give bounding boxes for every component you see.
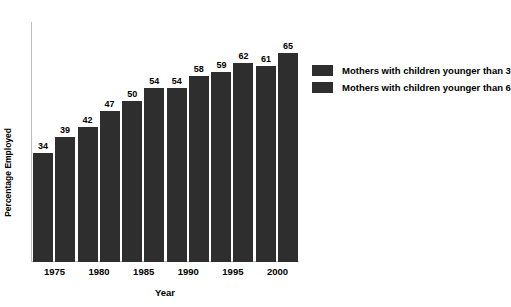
bar-group: 3439: [33, 8, 76, 262]
bar-wrapper: 42: [78, 8, 98, 262]
bar-group: 6165: [256, 8, 299, 262]
bar-group: 5962: [211, 8, 254, 262]
bar-value-label: 34: [38, 141, 48, 151]
x-tick-label: 2000: [256, 266, 299, 277]
bar-wrapper: 47: [100, 8, 120, 262]
bar-group: 5054: [122, 8, 165, 262]
x-tick-label: 1985: [122, 266, 165, 277]
legend-item-label: Mothers with children younger than 6: [342, 82, 511, 93]
bar[interactable]: [278, 53, 298, 262]
bar-value-label: 50: [127, 89, 137, 99]
bar-wrapper: 58: [189, 8, 209, 262]
bar-value-label: 42: [83, 115, 93, 125]
legend-item[interactable]: Mothers with children younger than 3: [312, 63, 511, 78]
bar-wrapper: 54: [144, 8, 164, 262]
bar[interactable]: [122, 101, 142, 262]
bar-wrapper: 65: [278, 8, 298, 262]
legend-item-label: Mothers with children younger than 3: [342, 65, 511, 76]
x-tick-label: 1975: [33, 266, 76, 277]
bar-value-label: 47: [105, 99, 115, 109]
bar-value-label: 58: [194, 64, 204, 74]
bar-wrapper: 50: [122, 8, 142, 262]
bar-value-label: 59: [216, 60, 226, 70]
bar-value-label: 61: [261, 54, 271, 64]
bar-value-label: 39: [60, 125, 70, 135]
bar-wrapper: 39: [55, 8, 75, 262]
bar[interactable]: [144, 88, 164, 262]
y-axis-title: Percentage Employed: [4, 128, 13, 217]
x-tick-label: 1980: [78, 266, 121, 277]
legend: Mothers with children younger than 3 Mot…: [312, 63, 511, 97]
bar-wrapper: 62: [233, 8, 253, 262]
bar-value-label: 54: [149, 76, 159, 86]
bar-value-label: 65: [283, 41, 293, 51]
bar[interactable]: [189, 76, 209, 262]
legend-item[interactable]: Mothers with children younger than 6: [312, 80, 511, 95]
bar[interactable]: [55, 137, 75, 262]
bar[interactable]: [233, 63, 253, 262]
bar-wrapper: 34: [33, 8, 53, 262]
bar[interactable]: [100, 111, 120, 262]
bar-wrapper: 54: [167, 8, 187, 262]
legend-swatch-icon: [312, 82, 333, 93]
bar-wrapper: 61: [256, 8, 276, 262]
bar-value-label: 54: [172, 76, 182, 86]
y-axis-line: [31, 22, 32, 262]
plot-area: 343942475054545859626165: [31, 8, 299, 262]
bar[interactable]: [211, 72, 231, 262]
bar[interactable]: [78, 127, 98, 262]
bar[interactable]: [256, 66, 276, 262]
x-tick-label: 1990: [167, 266, 210, 277]
x-axis-title: Year: [31, 287, 299, 298]
bar-wrapper: 59: [211, 8, 231, 262]
bar[interactable]: [167, 88, 187, 262]
bar-value-label: 62: [238, 51, 248, 61]
legend-swatch-icon: [312, 65, 333, 76]
bar-group: 5458: [167, 8, 210, 262]
bar-group: 4247: [78, 8, 121, 262]
x-tick-label: 1995: [211, 266, 254, 277]
bar[interactable]: [33, 153, 53, 262]
